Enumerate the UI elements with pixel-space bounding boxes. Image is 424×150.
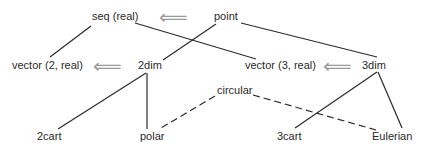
edge-seq-vector3	[135, 23, 256, 59]
node-3dim: 3dim	[362, 59, 386, 72]
edge-3dim-3cart	[295, 72, 377, 128]
node-circular: circular	[217, 84, 252, 97]
node-seq-real: seq (real)	[92, 10, 138, 23]
edge-3dim-eulerian	[378, 72, 402, 128]
node-vector2: vector (2, real)	[12, 59, 83, 72]
node-3cart: 3cart	[277, 130, 301, 143]
node-vector3: vector (3, real)	[245, 59, 316, 72]
node-polar: polar	[140, 130, 164, 143]
edge-point-3dim	[241, 23, 377, 57]
node-2cart: 2cart	[37, 130, 61, 143]
edge-seq-vector2	[50, 26, 91, 57]
type-hierarchy-diagram: seq (real) ⟸ point vector (2, real) ⟸ 2d…	[0, 0, 424, 150]
edge-2dim-2cart	[58, 73, 146, 129]
edge-circular-eulerian	[253, 95, 376, 130]
implements-arrow-icon: ⟸	[159, 7, 188, 27]
edges-layer	[0, 0, 424, 150]
node-point: point	[214, 10, 238, 23]
node-eulerian: Eulerian	[372, 130, 412, 143]
node-2dim: 2dim	[138, 59, 162, 72]
implements-arrow-icon: ⟸	[93, 56, 122, 76]
implements-arrow-icon: ⟸	[323, 56, 352, 76]
edge-point-2dim	[163, 24, 216, 60]
edge-circular-polar	[161, 96, 215, 128]
